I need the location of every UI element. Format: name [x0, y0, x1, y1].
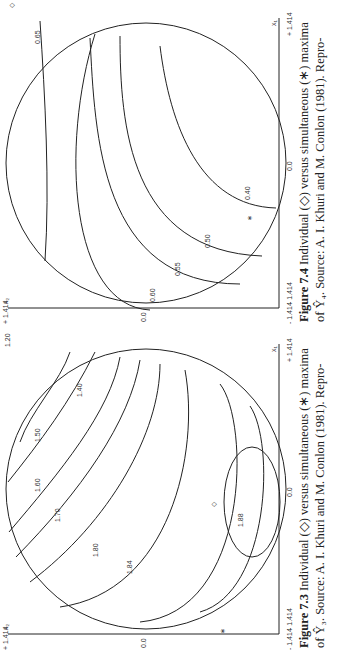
x-zero-label: 0.0 — [286, 487, 293, 497]
individual-max-marker: ◇ — [8, 2, 15, 8]
y-zero-label: 0.0 — [140, 638, 147, 648]
contour-label: 1.84 — [126, 560, 133, 574]
x-axis-label: x₁ — [270, 346, 277, 353]
contour-plot-7-3: ◇ ∗ 1.20 1.40 1.50 1.60 1.70 1.80 1.84 1… — [0, 326, 300, 652]
x-min-label: - 1.414 — [286, 608, 293, 630]
figure-label: Figure 7.4 — [297, 268, 311, 322]
contour-label: 0.60 — [149, 288, 156, 302]
x-axis-label: x₁ — [270, 20, 277, 27]
figure-label: Figure 7.3 — [297, 594, 311, 648]
x-max-label: + 1.414 — [286, 12, 293, 36]
simultaneous-max-marker: ∗ — [246, 215, 253, 221]
contour-label: 1.60 — [34, 478, 41, 492]
caption-text: Individual (◇) versus simultaneous (∗) m… — [297, 348, 311, 591]
contour-label: 0.40 — [244, 186, 251, 200]
caption-text: of Ŷ₃. Source: A. I. Khuri and M. Conlon… — [313, 363, 327, 648]
y-min-label: - 1.414 — [286, 302, 293, 324]
rotated-book-page: ◇ ∗ 1.20 1.40 1.50 1.60 1.70 1.80 1.84 1… — [0, 0, 348, 652]
contour-label: 0.65 — [34, 30, 41, 44]
caption-text: Individual (◇) versus simultaneous (∗) m… — [297, 22, 311, 265]
y-min-label: - 1.414 — [286, 628, 293, 650]
figure-7-3: ◇ ∗ 1.20 1.40 1.50 1.60 1.70 1.80 1.84 1… — [0, 326, 348, 652]
x-zero-label: 0.0 — [286, 161, 293, 171]
figure-7-4: ◇ ∗ 0.40 0.50 0.55 0.60 0.65 + 1.414 x₂ … — [0, 0, 348, 326]
x-max-label: + 1.414 — [286, 338, 293, 362]
contour-label: 1.20 — [4, 333, 11, 347]
figure-caption: Figure 7.4 Individual (◇) versus simulta… — [296, 4, 328, 322]
contour-label: 1.88 — [237, 513, 244, 527]
simultaneous-max-marker: ∗ — [219, 628, 226, 634]
caption-text: of Ŷ₄. Source: A. I. Khuri and M. Conlon… — [313, 37, 327, 322]
contour-label: 1.40 — [76, 383, 83, 397]
contour-label: 0.50 — [204, 234, 211, 248]
contour-label: 1.80 — [92, 543, 99, 557]
y-zero-label: 0.0 — [140, 312, 147, 322]
figure-caption: Figure 7.3 Individual (◇) versus simulta… — [296, 330, 328, 648]
x-min-label: - 1.414 — [286, 282, 293, 304]
contour-plot-7-4: ◇ ∗ 0.40 0.50 0.55 0.60 0.65 + 1.414 x₂ … — [0, 0, 300, 326]
y-axis-label: x₂ — [2, 298, 9, 305]
y-axis-label: x₂ — [2, 624, 9, 631]
contour-label: 1.50 — [34, 428, 41, 442]
contour-label: 1.70 — [54, 508, 61, 522]
contour-label: 0.55 — [174, 262, 181, 276]
individual-max-marker: ◇ — [210, 501, 217, 507]
